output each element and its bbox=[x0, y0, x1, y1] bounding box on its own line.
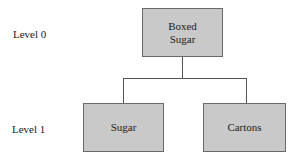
root-node-label-line1: Boxed bbox=[168, 20, 197, 33]
connector-to-cartons bbox=[246, 78, 247, 103]
child-node-cartons: Cartons bbox=[203, 103, 286, 152]
level-1-label: Level 1 bbox=[12, 123, 45, 135]
child-node-cartons-label: Cartons bbox=[227, 121, 261, 134]
child-node-sugar-label: Sugar bbox=[111, 121, 137, 134]
level-0-label: Level 0 bbox=[13, 28, 46, 40]
child-node-sugar: Sugar bbox=[83, 103, 164, 152]
root-node-boxed-sugar: Boxed Sugar bbox=[142, 8, 223, 57]
root-node-label: Boxed Sugar bbox=[168, 20, 197, 46]
connector-horizontal bbox=[123, 78, 247, 79]
connector-root-down bbox=[182, 57, 183, 78]
root-node-label-line2: Sugar bbox=[168, 33, 197, 46]
connector-to-sugar bbox=[123, 78, 124, 103]
